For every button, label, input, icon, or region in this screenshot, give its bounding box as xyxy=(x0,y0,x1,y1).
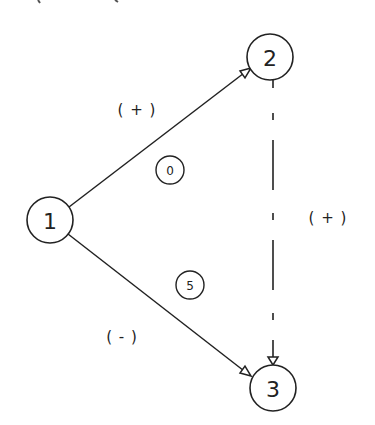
weight-label-5: 5 xyxy=(186,279,194,293)
sign-label-edge-1-3: ( - ) xyxy=(106,328,138,346)
arrowhead-1-2 xyxy=(240,68,251,78)
node-3-label: 3 xyxy=(266,377,280,402)
arrowhead-2-3 xyxy=(268,357,278,365)
edge-1-3 xyxy=(68,234,248,374)
node-2-label: 2 xyxy=(263,46,277,71)
node-1-label: 1 xyxy=(43,209,57,234)
weight-label-0: 0 xyxy=(166,164,174,178)
cropped-marks xyxy=(38,0,118,3)
sign-label-edge-2-3: ( + ) xyxy=(309,209,348,227)
arrowhead-1-3 xyxy=(240,366,251,376)
edge-1-2 xyxy=(69,70,248,207)
sign-label-edge-1-2: ( + ) xyxy=(118,101,157,119)
